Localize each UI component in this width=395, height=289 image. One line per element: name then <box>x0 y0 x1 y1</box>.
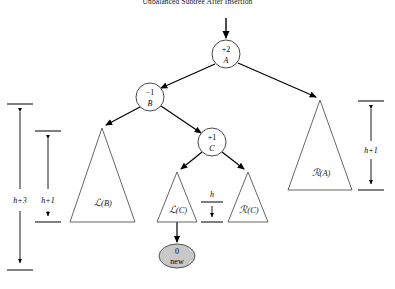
subtree-triangle-lc: ℒ(C) <box>157 172 197 222</box>
subtree-triangle-ra: ℛ(A) <box>288 100 352 190</box>
tree-node-c[interactable]: +1 C <box>198 128 226 156</box>
subtree-label-lb: ℒ(B) <box>94 197 112 208</box>
measurement-h-plus-1-left: h+1 <box>35 131 61 222</box>
edge-c-to-subtree-rc <box>222 152 244 169</box>
measurement-label-h-plus-1-left: h+1 <box>41 196 54 205</box>
edge-a-to-subtree-ra <box>238 63 316 97</box>
tree-node-new[interactable]: 0 new <box>159 244 195 268</box>
measurement-h-middle: h <box>201 190 223 222</box>
subtree-label-lc: ℒ(C) <box>169 204 188 215</box>
subtree-triangle-lb: ℒ(B) <box>70 128 135 222</box>
node-b-balance-factor: −1 <box>146 88 155 97</box>
edge-b-to-c <box>161 106 201 133</box>
subtree-triangle-rc: ℛ(C) <box>228 172 268 222</box>
figure-canvas: Unbalanced Subtree After Insertion <box>0 0 395 289</box>
measurement-h-plus-1-right: h+1 <box>358 101 384 190</box>
measurement-h-plus-3: h+3 <box>7 104 33 270</box>
measurement-label-h-middle: h <box>210 190 214 199</box>
tree-node-a[interactable]: +2 A <box>212 40 240 68</box>
tree-diagram-svg: ℒ(B) ℒ(C) ℛ(C) ℛ(A) +2 A <box>0 0 395 289</box>
node-a-name: A <box>223 56 229 65</box>
edge-a-to-b <box>161 64 215 88</box>
measurement-label-h-plus-1-right: h+1 <box>364 146 377 155</box>
edge-c-to-subtree-lc <box>181 152 202 169</box>
node-b-name: B <box>148 99 153 108</box>
tree-node-b[interactable]: −1 B <box>136 83 164 111</box>
measurement-label-h-plus-3: h+3 <box>13 196 26 205</box>
node-a-balance-factor: +2 <box>222 45 231 54</box>
edge-b-to-subtree-lb <box>106 107 140 125</box>
node-c-balance-factor: +1 <box>208 133 217 142</box>
subtree-label-rc: ℛ(C) <box>239 204 259 215</box>
node-new-name: new <box>170 257 184 266</box>
subtree-label-ra: ℛ(A) <box>312 167 331 178</box>
node-new-balance-factor: 0 <box>175 247 179 256</box>
node-c-name: C <box>209 144 215 153</box>
